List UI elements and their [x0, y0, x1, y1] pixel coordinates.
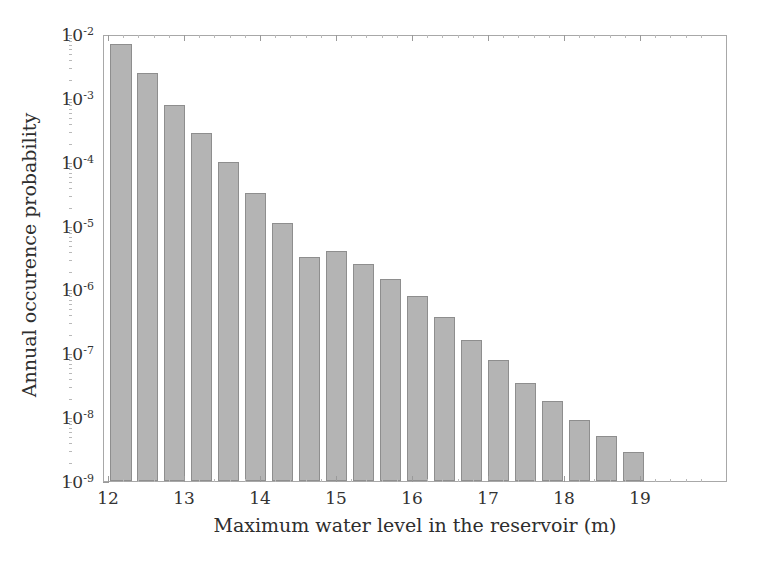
x-tick-label: 12 [97, 488, 119, 508]
x-tick-minor [382, 35, 383, 38]
x-tick-minor [169, 479, 170, 482]
y-tick-minor [69, 387, 72, 388]
y-tick-minor [69, 296, 72, 297]
bar [272, 223, 293, 481]
x-tick-minor [594, 479, 595, 482]
x-tick-major [336, 35, 337, 41]
y-tick-minor [69, 432, 72, 433]
x-tick-minor [138, 479, 139, 482]
x-tick-minor [534, 35, 535, 38]
x-tick-minor [366, 35, 367, 38]
y-tick-minor [69, 113, 72, 114]
y-tick-minor [69, 241, 72, 242]
bar [110, 44, 132, 481]
bar [218, 162, 239, 481]
x-tick-minor [275, 479, 276, 482]
x-tick-minor [670, 479, 671, 482]
y-tick-minor [69, 124, 72, 125]
x-tick-major [336, 476, 337, 482]
y-tick-minor [69, 424, 72, 425]
y-tick-minor [69, 368, 72, 369]
y-tick-minor [69, 188, 72, 189]
y-axis: 10-210-310-410-510-610-710-810-9 [0, 0, 103, 575]
x-tick-minor [655, 479, 656, 482]
y-tick-minor [69, 360, 72, 361]
x-tick-minor [397, 479, 398, 482]
x-tick-minor [503, 35, 504, 38]
y-tick-minor [69, 41, 72, 42]
x-tick-minor [625, 35, 626, 38]
y-tick-minor [69, 166, 72, 167]
bar [488, 360, 509, 481]
x-tick-minor [473, 35, 474, 38]
plot-area [103, 35, 727, 482]
y-tick-minor [69, 309, 72, 310]
x-tick-minor [290, 35, 291, 38]
chart-figure: 10-210-310-410-510-610-710-810-9 1213141… [0, 0, 758, 575]
bar [461, 340, 482, 481]
x-tick-major [640, 35, 641, 41]
bar [353, 264, 374, 481]
x-tick-minor [442, 479, 443, 482]
y-tick-minor [69, 54, 72, 55]
x-tick-major [564, 35, 565, 41]
x-tick-minor [214, 479, 215, 482]
y-tick-label: 10-4 [61, 153, 94, 174]
y-tick-minor [69, 169, 72, 170]
x-tick-minor [138, 35, 139, 38]
y-tick-minor [69, 208, 72, 209]
bar [407, 296, 428, 481]
x-tick-minor [169, 35, 170, 38]
x-tick-minor [382, 479, 383, 482]
y-tick-minor [69, 173, 72, 174]
y-tick-minor [69, 357, 72, 358]
y-tick-minor [69, 463, 72, 464]
y-tick-minor [69, 246, 72, 247]
x-tick-major [260, 35, 261, 41]
x-tick-label: 14 [249, 488, 271, 508]
x-tick-minor [306, 35, 307, 38]
x-tick-major [564, 476, 565, 482]
x-tick-label: 18 [553, 488, 575, 508]
y-tick-minor [69, 428, 72, 429]
x-tick-minor [230, 35, 231, 38]
y-tick-minor [69, 421, 72, 422]
x-tick-minor [579, 35, 580, 38]
y-tick-minor [69, 38, 72, 39]
x-tick-major [108, 476, 109, 482]
y-tick-minor [69, 315, 72, 316]
x-tick-minor [686, 35, 687, 38]
y-tick-minor [69, 118, 72, 119]
y-tick-minor [69, 437, 72, 438]
x-tick-major [488, 35, 489, 41]
x-tick-minor [214, 35, 215, 38]
bar [137, 73, 158, 481]
y-tick-minor [69, 105, 72, 106]
x-tick-minor [245, 479, 246, 482]
x-tick-major [412, 35, 413, 41]
y-axis-title: Annual occurence probability [18, 30, 40, 480]
y-tick-minor [69, 60, 72, 61]
y-tick-minor [69, 260, 72, 261]
y-tick-major [103, 482, 109, 483]
y-tick-minor [69, 109, 72, 110]
y-tick-label: 10-5 [61, 217, 94, 238]
y-tick-minor [69, 252, 72, 253]
y-tick-minor [69, 293, 72, 294]
bar [515, 383, 536, 481]
x-tick-minor [321, 479, 322, 482]
x-tick-major [108, 35, 109, 41]
bar [434, 317, 455, 481]
x-tick-minor [701, 35, 702, 38]
bar [542, 401, 563, 481]
x-tick-minor [625, 479, 626, 482]
bar [164, 105, 185, 481]
x-tick-minor [306, 479, 307, 482]
bar [596, 436, 617, 481]
y-tick-minor [69, 49, 72, 50]
y-tick-minor [69, 335, 72, 336]
x-tick-minor [610, 479, 611, 482]
y-tick-minor [69, 323, 72, 324]
y-tick-minor [69, 237, 72, 238]
x-tick-minor [154, 479, 155, 482]
